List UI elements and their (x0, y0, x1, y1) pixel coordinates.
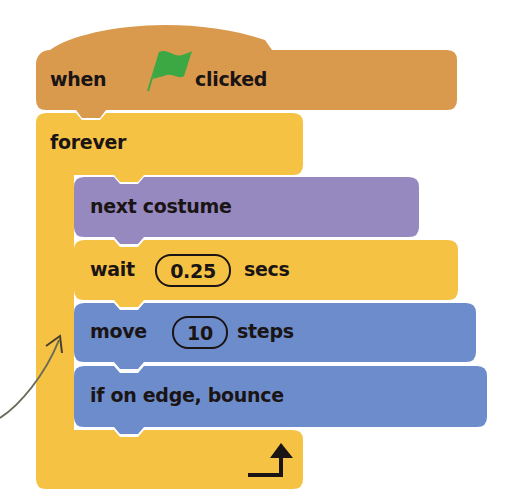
hat-label-when: when (50, 68, 106, 90)
steps-label: steps (237, 320, 294, 342)
secs-label: secs (244, 258, 290, 280)
move-label: move (90, 320, 147, 342)
move-steps-input[interactable]: 10 (172, 316, 228, 349)
hat-label-clicked: clicked (195, 68, 267, 90)
wait-label: wait (90, 258, 135, 280)
forever-label: forever (50, 131, 126, 153)
forever-block[interactable] (36, 113, 303, 489)
wait-seconds-input[interactable]: 0.25 (155, 254, 231, 287)
next-costume-label: next costume (90, 195, 232, 217)
bounce-label: if on edge, bounce (90, 384, 284, 406)
